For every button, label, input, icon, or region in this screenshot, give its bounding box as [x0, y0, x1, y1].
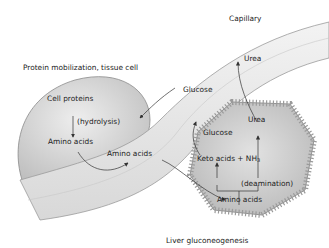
capillary-label: Capillary [229, 15, 261, 22]
blood-urea-label: Urea [244, 55, 261, 62]
tissue-cell-title: Protein mobilization, tissue cell [23, 64, 138, 71]
liver-urea-label: Urea [248, 116, 265, 123]
liver-title: Liver gluconeogenesis [166, 237, 248, 244]
keto-acids-nh3-label: Keto acids + NH3 [197, 155, 260, 163]
keto-acids-text: Keto acids + NH [197, 154, 257, 163]
diagram-artwork [0, 0, 329, 248]
hydrolysis-label: (hydrolysis) [77, 118, 120, 125]
blood-amino-acids-label: Amino acids [107, 150, 152, 157]
tissue-amino-acids-label: Amino acids [48, 138, 93, 145]
cell-proteins-label: Cell proteins [47, 95, 93, 102]
nh3-subscript: 3 [257, 157, 260, 163]
liver-amino-acids-label: Amino acids [217, 196, 262, 203]
liver-glucose-label: Glucose [203, 129, 232, 136]
deamination-label: (deamination) [241, 180, 293, 187]
gluconeogenesis-diagram: Capillary Protein mobilization, tissue c… [0, 0, 329, 248]
blood-glucose-label: Glucose [183, 86, 212, 93]
